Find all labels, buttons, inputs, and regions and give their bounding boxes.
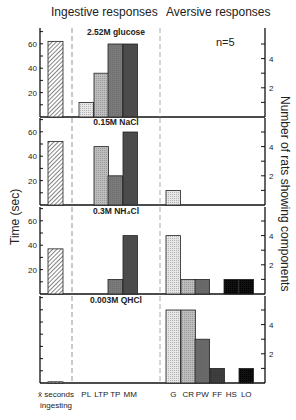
bar-tp [108, 279, 123, 294]
y-axis-label-left: Time (sec) [8, 189, 22, 245]
mean-seconds-bar [48, 41, 63, 117]
bar-mm [123, 132, 138, 205]
left-tick-label: 40 [28, 241, 37, 250]
mean-label-line2: ingesting [40, 401, 72, 410]
bar-hs [224, 279, 239, 294]
left-tick-label: 60 [28, 40, 37, 49]
left-tick-label: 40 [28, 64, 37, 73]
stimulus-label: 2.52M glucose [87, 27, 145, 37]
bar-ltp [94, 147, 109, 205]
bar-cr [181, 310, 196, 383]
bar-g [166, 236, 181, 294]
mean-seconds-bar [48, 249, 63, 294]
left-tick-label: 60 [28, 217, 37, 226]
category-label: CR [182, 390, 194, 399]
category-label: FF [212, 390, 222, 399]
category-label: PW [196, 390, 209, 399]
stimulus-label: 0.15M NaCl [93, 117, 138, 127]
group-label-aversive: Aversive responses [166, 5, 271, 19]
category-label: HS [226, 390, 237, 399]
bar-tp [108, 44, 123, 117]
bar-ff [210, 368, 225, 383]
category-label: LO [241, 390, 252, 399]
category-label: TP [110, 390, 120, 399]
mean-label-line1: x̄ seconds [38, 390, 74, 399]
bar-cr [181, 279, 196, 294]
left-tick-label: 40 [28, 152, 37, 161]
right-tick-label: 2 [269, 261, 274, 270]
bar-pw [195, 339, 210, 383]
right-tick-label: 4 [269, 232, 274, 241]
annotation-n: n=5 [216, 36, 235, 48]
left-tick-label: 20 [28, 177, 37, 186]
bar-lo [239, 368, 254, 383]
y-axis-label-right: Number of rats showing components [278, 96, 292, 291]
bar-g [166, 190, 181, 205]
category-label: PL [81, 390, 91, 399]
right-tick-label: 4 [269, 143, 274, 152]
bar-ltp [94, 73, 109, 117]
mean-seconds-bar [48, 382, 63, 383]
category-label: G [170, 390, 176, 399]
bar-mm [123, 236, 138, 294]
left-tick-label: 20 [28, 89, 37, 98]
bar-pw [195, 279, 210, 294]
group-label-ingestive: Ingestive responses [51, 5, 158, 19]
chart: Ingestive responses Aversive responses n… [0, 0, 296, 420]
right-tick-label: 4 [269, 321, 274, 330]
right-tick-label: 2 [269, 350, 274, 359]
left-tick-label: 20 [28, 266, 37, 275]
mean-seconds-bar [48, 142, 63, 205]
stimulus-label: 0.3M NH₄Cl [93, 206, 139, 216]
bar-g [166, 310, 181, 383]
category-label: LTP [94, 390, 108, 399]
stimulus-label: 0.003M QHCl [90, 295, 142, 305]
bar-tp [108, 176, 123, 205]
left-tick-label: 60 [28, 128, 37, 137]
bar-pl [79, 102, 94, 117]
category-label: MM [124, 390, 138, 399]
right-tick-label: 2 [269, 172, 274, 181]
bar-lo [239, 279, 254, 294]
right-tick-label: 4 [269, 55, 274, 64]
right-tick-label: 2 [269, 84, 274, 93]
bar-mm [123, 44, 138, 117]
